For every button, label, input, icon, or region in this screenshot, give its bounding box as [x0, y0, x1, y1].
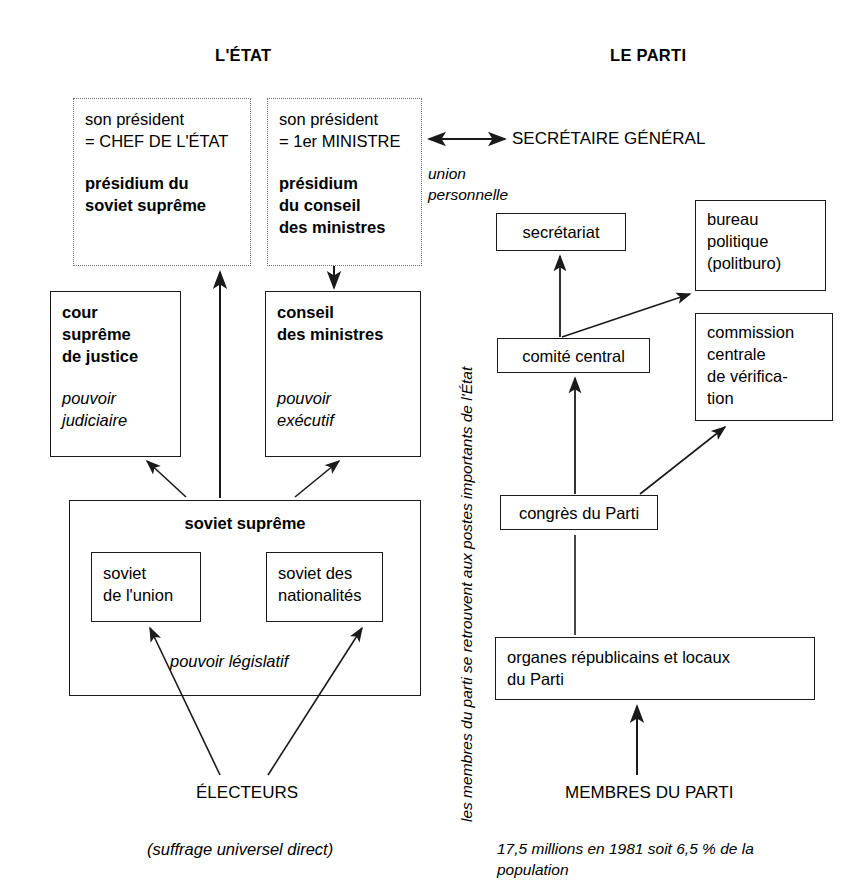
comite-central-label: comité central — [522, 345, 625, 367]
box-presidium-conseil-ministres: son président = 1er MINISTRE présidium d… — [267, 98, 422, 266]
diagram-canvas: L'ÉTAT LE PARTI son président = CHEF DE … — [0, 0, 866, 885]
soviet-nationalites-label: soviet des nationalités — [278, 562, 371, 606]
box-bureau-politique: bureau politique (politburo) — [695, 200, 826, 291]
label-suffrage-universel: (suffrage universel direct) — [147, 838, 333, 860]
box-cour-supreme-de-justice: cour suprême de justice pouvoir judiciai… — [50, 291, 181, 457]
heading-letat: L'ÉTAT — [215, 44, 271, 66]
box-secretariat: secrétariat — [496, 213, 626, 251]
arrow-soviet-to-cour-supreme — [147, 461, 186, 497]
arrow-congres-to-commission-centrale — [640, 427, 725, 494]
label-union-personnelle: union personnelle — [428, 163, 508, 205]
soviet-supreme-title: soviet suprême — [70, 501, 420, 534]
conseil-ministres-name: conseil des ministres — [277, 301, 409, 345]
cour-supreme-power: pouvoir judiciaire — [62, 387, 169, 431]
heading-leparti: LE PARTI — [610, 44, 686, 66]
spacer — [62, 367, 169, 387]
secretariat-label: secrétariat — [522, 221, 599, 243]
conseil-ministres-power: pouvoir exécutif — [277, 387, 409, 431]
soviet-union-label: soviet de l'union — [103, 562, 189, 606]
presidium-soviet-line2: = CHEF DE L'ÉTAT — [85, 130, 239, 152]
bureau-politique-label: bureau politique (politburo) — [707, 208, 814, 274]
box-presidium-soviet-supreme: son président = CHEF DE L'ÉTAT présidium… — [73, 98, 251, 266]
presidium-conseil-line1: son président — [279, 108, 410, 130]
label-membres-statistics: 17,5 millions en 1981 soit 6,5 % de la p… — [497, 838, 754, 880]
presidium-conseil-line2: = 1er MINISTRE — [279, 130, 410, 152]
label-membres-du-parti: MEMBRES DU PARTI — [565, 782, 733, 804]
box-soviet-des-nationalites: soviet des nationalités — [266, 552, 383, 622]
presidium-soviet-line1: son président — [85, 108, 239, 130]
organes-locaux-label: organes républicains et locaux du Parti — [507, 646, 803, 690]
congres-label: congrès du Parti — [519, 502, 639, 524]
arrow-soviet-to-conseil-ministres — [295, 461, 339, 497]
annotation-membres-du-parti-postes: les membres du parti se retrouvent aux p… — [458, 367, 476, 822]
label-pouvoir-legislatif: pouvoir législatif — [170, 650, 288, 672]
box-commission-centrale-verification: commission centrale de vérifica- tion — [695, 313, 833, 421]
cour-supreme-name: cour suprême de justice — [62, 301, 169, 367]
box-soviet-de-lunion: soviet de l'union — [91, 552, 201, 622]
commission-centrale-label: commission centrale de vérifica- tion — [707, 321, 821, 409]
spacer — [279, 152, 410, 172]
arrow-comite-to-bureau-politique — [562, 294, 690, 337]
presidium-conseil-name: présidium du conseil des ministres — [279, 172, 410, 238]
box-conseil-des-ministres: conseil des ministres pouvoir exécutif — [265, 291, 421, 457]
box-comite-central: comité central — [497, 338, 650, 373]
spacer — [277, 345, 409, 387]
presidium-soviet-name: présidium du soviet suprême — [85, 172, 239, 216]
box-organes-republicains-locaux: organes républicains et locaux du Parti — [495, 637, 815, 700]
spacer — [85, 152, 239, 172]
box-congres-du-parti: congrès du Parti — [500, 495, 658, 530]
label-electeurs: ÉLECTEURS — [196, 782, 298, 804]
label-secretaire-general: SECRÉTAIRE GÉNÉRAL — [512, 128, 705, 150]
